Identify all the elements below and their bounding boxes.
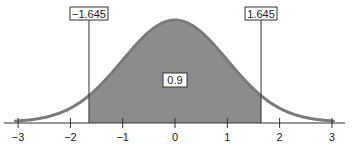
lower-critical-label: −1.645 bbox=[72, 8, 106, 20]
normal-distribution-chart: −3−2−10123 −1.645 1.645 0.9 bbox=[0, 0, 356, 158]
x-tick-label: 3 bbox=[329, 131, 335, 143]
x-tick: 2 bbox=[277, 118, 283, 143]
x-tick-label: 2 bbox=[277, 131, 283, 143]
x-tick-label: −3 bbox=[12, 131, 25, 143]
x-tick-label: 0 bbox=[172, 131, 178, 143]
x-tick: −2 bbox=[64, 118, 77, 143]
upper-critical-label: 1.645 bbox=[247, 8, 275, 20]
x-tick-label: −1 bbox=[116, 131, 129, 143]
area-label: 0.9 bbox=[167, 74, 182, 86]
x-tick-label: −2 bbox=[64, 131, 77, 143]
x-tick-label: 1 bbox=[224, 131, 230, 143]
shaded-area-0.9 bbox=[89, 21, 261, 123]
area-annotation: 0.9 bbox=[163, 73, 187, 87]
